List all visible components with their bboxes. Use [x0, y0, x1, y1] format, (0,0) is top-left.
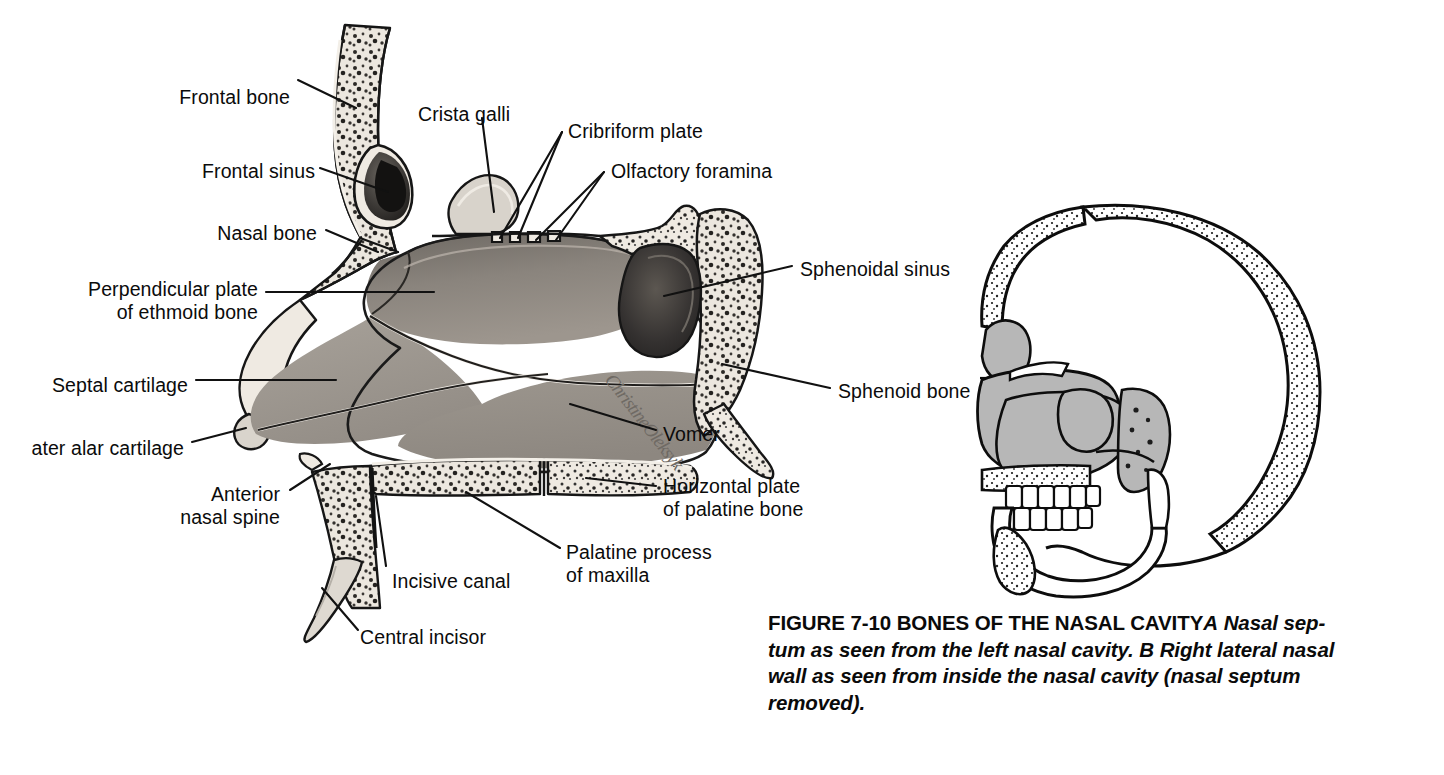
label-palatine-process: Palatine process of maxilla — [566, 541, 741, 587]
label-nasal-bone: Nasal bone — [192, 222, 317, 245]
caption-part-b-letter: B — [1139, 638, 1154, 661]
label-frontal-sinus: Frontal sinus — [175, 160, 315, 183]
figure-page: ChristineOleksyk — [0, 0, 1444, 775]
label-anterior-nasal-spine: Anterior nasal spine — [155, 483, 280, 529]
figure-caption: FIGURE 7-10 BONES OF THE NASAL CAVITYA N… — [768, 610, 1390, 717]
label-sphenoidal-sinus: Sphenoidal sinus — [800, 258, 970, 281]
label-septal-cartilage: Septal cartilage — [22, 374, 188, 397]
label-vomer: Vomer — [663, 423, 743, 446]
label-greater-alar-cartilage: ater alar cartilage — [0, 437, 184, 460]
label-perpendicular-plate: Perpendicular plate of ethmoid bone — [58, 278, 258, 324]
label-incisive-canal: Incisive canal — [392, 570, 532, 593]
caption-title: FIGURE 7-10 BONES OF THE NASAL CAVITY — [768, 611, 1203, 634]
label-crista-galli: Crista galli — [418, 103, 538, 126]
label-olfactory-foramina: Olfactory foramina — [611, 160, 796, 183]
label-horizontal-plate: Horizontal plate of palatine bone — [663, 475, 838, 521]
label-frontal-bone: Frontal bone — [155, 86, 290, 109]
label-cribriform-plate: Cribriform plate — [568, 120, 728, 143]
caption-part-a-letter: A — [1203, 611, 1218, 634]
label-central-incisor: Central incisor — [360, 626, 510, 649]
label-sphenoid-bone: Sphenoid bone — [838, 380, 988, 403]
